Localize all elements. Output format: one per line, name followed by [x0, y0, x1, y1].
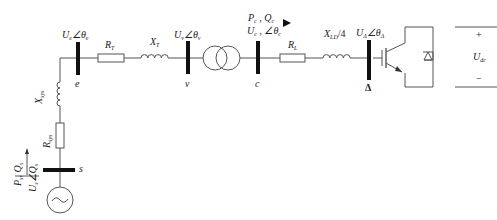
- bus-c-label: c: [255, 79, 259, 89]
- bus-e-voltage-label: Ue∠θe: [62, 30, 89, 41]
- transformer-winding-1: [203, 46, 227, 70]
- inductor-xt: [141, 55, 168, 58]
- bus-v: [186, 41, 190, 74]
- inductor-xld: [323, 55, 350, 58]
- resistor-rl: [280, 54, 305, 62]
- xsys-label: Xsys: [34, 91, 45, 104]
- rt-label: RT: [105, 40, 114, 51]
- bus-c: [256, 41, 260, 74]
- dc-voltage-label: Udc: [473, 52, 486, 63]
- xt-label: XT: [150, 37, 159, 48]
- bus-e: [76, 42, 80, 75]
- bus-s-label: s: [79, 164, 83, 174]
- arrow-head-s-icon: [25, 148, 29, 154]
- resistor-rt: [98, 54, 124, 62]
- xld-label: XLD/4: [324, 29, 346, 40]
- dc-plus-label: +: [476, 30, 482, 40]
- igbt-collector: [386, 43, 405, 52]
- bus-delta: [367, 40, 371, 80]
- bus-v-voltage-label: Uv∠θv: [174, 30, 201, 41]
- dc-minus-label: −: [476, 74, 482, 84]
- bus-v-label: v: [185, 79, 189, 89]
- diode-icon: [424, 52, 432, 60]
- rl-label: RL: [288, 40, 297, 51]
- power-flow-c-label: Pc , Qc: [248, 13, 274, 24]
- inductor-xsys: [57, 82, 60, 106]
- bus-e-label: e: [75, 79, 79, 89]
- bus-delta-label: Δ: [365, 83, 371, 93]
- power-flow-arrow-c-icon: [283, 19, 291, 27]
- bus-delta-voltage-label: UΔ∠θΔ: [356, 28, 384, 39]
- power-flow-s-label: Ps, Qs: [13, 163, 24, 186]
- resistor-rsys: [56, 123, 64, 148]
- igbt-emitter-arrow-icon: [395, 66, 402, 72]
- transformer-winding-2: [216, 46, 240, 70]
- bus-c-voltage-label: Uc , ∠θc: [247, 26, 281, 37]
- rsys-label: Rsys: [42, 135, 53, 148]
- sine-wave-icon: [52, 198, 68, 203]
- bus-s: [43, 168, 75, 172]
- bus-s-voltage-label: Us∠Qs: [28, 164, 39, 192]
